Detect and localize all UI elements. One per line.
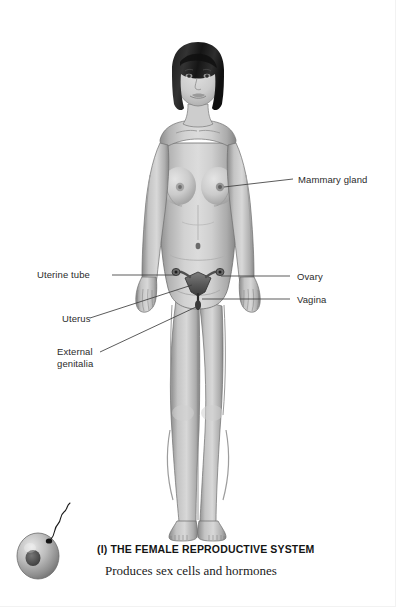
female-reproductive-system-illustration <box>0 0 396 607</box>
label-vagina: Vagina <box>297 294 326 306</box>
label-external-genitalia-line1: External <box>57 346 93 358</box>
neck <box>183 104 213 127</box>
right-eye <box>205 74 209 78</box>
caption-subtitle: Produces sex cells and hormones <box>105 563 277 579</box>
label-ovary: Ovary <box>297 271 323 283</box>
sperm-tail <box>51 503 70 539</box>
label-mammary-gland: Mammary gland <box>298 174 367 186</box>
right-hand <box>239 277 260 312</box>
anatomical-figure-panel: Mammary gland Uterine tube Uterus Extern… <box>0 0 396 607</box>
left-eye <box>187 74 191 78</box>
ovum-with-sperm-icon <box>17 503 70 579</box>
right-foot <box>198 521 226 541</box>
caption-title: (l) THE FEMALE REPRODUCTIVE SYSTEM <box>97 543 314 555</box>
label-uterus: Uterus <box>62 313 91 325</box>
left-hand <box>136 277 157 312</box>
label-uterine-tube: Uterine tube <box>37 269 90 281</box>
label-external-genitalia-line2: genitalia <box>57 358 93 370</box>
external-genitalia-organ <box>195 301 201 310</box>
